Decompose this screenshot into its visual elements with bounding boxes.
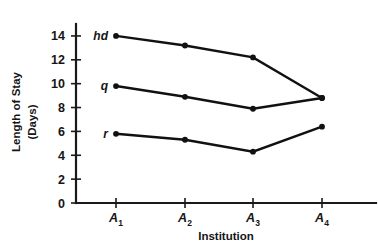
- y-tick-label-10: 10: [51, 77, 65, 91]
- data-point-r-A1: [113, 131, 119, 137]
- x-axis-title: Institution: [198, 230, 254, 242]
- data-point-q-A4: [319, 95, 325, 101]
- data-point-hd-A1: [113, 33, 119, 39]
- data-point-r-A3: [250, 149, 256, 155]
- line-chart: 14121086420 A1A2A3A4 hdqr Institution Le…: [0, 0, 378, 245]
- y-tick-label-0: 0: [58, 197, 65, 211]
- y-tick-label-8: 8: [58, 101, 65, 115]
- y-tick-label-14: 14: [51, 29, 65, 43]
- series-label-hd: hd: [93, 29, 108, 43]
- data-point-r-A2: [182, 137, 188, 143]
- series-label-q: q: [101, 79, 109, 93]
- data-point-q-A2: [182, 94, 188, 100]
- y-tick-label-2: 2: [58, 173, 65, 187]
- data-point-q-A3: [250, 106, 256, 112]
- data-point-q-A1: [113, 83, 119, 89]
- y-tick-label-6: 6: [58, 125, 65, 139]
- y-axis-title-line1: Length of Stay: [10, 71, 22, 151]
- y-tick-label-12: 12: [51, 53, 65, 67]
- y-axis-title-line2: (Days): [26, 104, 38, 139]
- data-point-hd-A3: [250, 55, 256, 61]
- chart-container: 14121086420 A1A2A3A4 hdqr Institution Le…: [0, 0, 378, 245]
- y-tick-label-4: 4: [58, 149, 65, 163]
- data-point-r-A4: [319, 124, 325, 130]
- data-point-hd-A2: [182, 43, 188, 49]
